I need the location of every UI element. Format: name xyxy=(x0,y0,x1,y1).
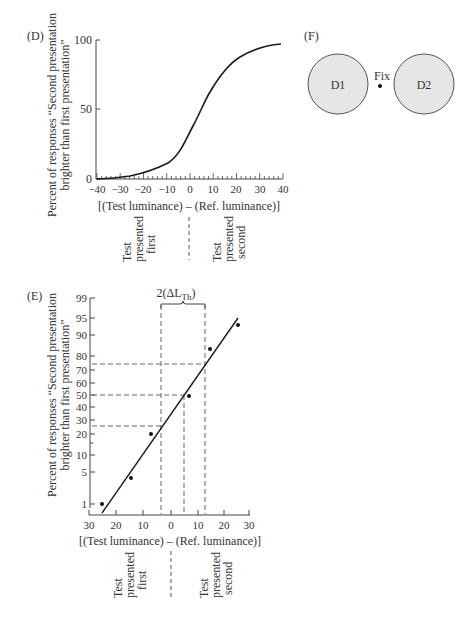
figure: (D) Percent of responses “Second present… xyxy=(0,0,475,628)
panel-e-xtick: 10 xyxy=(193,519,205,531)
panel-d-xtick: 20 xyxy=(231,183,243,195)
panel-f: (F) D1 Fix D2 xyxy=(304,29,454,114)
panel-e-ytick: 50 xyxy=(76,389,88,401)
panel-e-ytick: 70 xyxy=(76,364,88,376)
panel-e-xtick: 30 xyxy=(244,519,256,531)
panel-e-bracket-label: 2(ΔLTh) xyxy=(156,286,195,302)
panel-d-annot-left: Test presented first xyxy=(120,216,158,262)
panel-e-ylabel-line1: Percent of responses “Second presentatio… xyxy=(45,293,59,497)
panel-e-reference-lines xyxy=(92,305,205,514)
panel-e-ytick: 99 xyxy=(76,292,88,304)
panel-e-ytick: 20 xyxy=(76,428,88,440)
panel-e-xtick: 20 xyxy=(219,519,231,531)
panel-e-xlabel: [(Test luminance) – (Ref. luminance)] xyxy=(79,534,261,548)
panel-e-annot-left: Test presented first xyxy=(111,552,149,598)
panel-e-xtick: 10 xyxy=(138,519,150,531)
panel-e-annot-right: Test presented second xyxy=(197,552,235,598)
panel-d-xlabel: [(Test luminance) – (Ref. luminance)] xyxy=(98,199,280,213)
panel-e-ytick: 90 xyxy=(76,329,88,341)
panel-e: (E) Percent of responses “Second present… xyxy=(27,286,261,598)
panel-e-fit-line xyxy=(102,318,238,513)
panel-d: (D) Percent of responses “Second present… xyxy=(27,13,289,262)
panel-d-ytick: 50 xyxy=(80,102,92,116)
panel-d-xtick: −40 xyxy=(88,183,106,195)
panel-e-ytick: 95 xyxy=(76,312,88,324)
panel-e-ytick: 1 xyxy=(82,498,88,510)
panel-e-x-ticks xyxy=(89,510,249,515)
panel-f-label: (F) xyxy=(304,29,319,43)
panel-e-ytick: 5 xyxy=(82,466,88,478)
svg-text:first: first xyxy=(135,570,149,590)
panel-e-ytick: 30 xyxy=(76,414,88,426)
panel-e-ytick: 10 xyxy=(76,449,88,461)
panel-e-ytick: 40 xyxy=(76,401,88,413)
svg-text:second: second xyxy=(234,226,248,259)
fix-label: Fix xyxy=(374,69,390,83)
panel-e-bracket xyxy=(161,301,205,308)
panel-d-annot-right: Test presented second xyxy=(210,216,248,262)
panel-d-xtick: 30 xyxy=(255,183,267,195)
panel-d-xtick: 40 xyxy=(278,183,290,195)
panel-e-ylabel-line2: brighter than first presentation” xyxy=(58,320,72,471)
panel-e-label: (E) xyxy=(27,289,42,303)
panel-d-xtick: −10 xyxy=(158,183,176,195)
panel-d-xtick: −20 xyxy=(134,183,152,195)
panel-e-ytick: 60 xyxy=(76,377,88,389)
panel-e-xtick: 0 xyxy=(168,519,174,531)
panel-e-xtick: 20 xyxy=(111,519,123,531)
panel-d-xtick: 0 xyxy=(187,183,193,195)
panel-d-psychometric-curve xyxy=(97,44,281,179)
panel-e-ytick: 80 xyxy=(76,350,88,362)
disk-d1-label: D1 xyxy=(331,78,346,92)
disk-d2-label: D2 xyxy=(417,78,432,92)
panel-d-ylabel-line2: brighter than first presentation” xyxy=(58,40,72,191)
panel-d-xtick: 10 xyxy=(208,183,220,195)
panel-e-xtick: 30 xyxy=(84,519,96,531)
panel-d-ylabel-line1: Percent of responses “Second presentatio… xyxy=(45,13,59,217)
panel-e-y-ticks xyxy=(90,298,95,504)
svg-text:first: first xyxy=(144,234,158,254)
svg-text:second: second xyxy=(221,562,235,595)
fixation-dot-icon xyxy=(378,84,382,88)
panel-d-ytick: 100 xyxy=(74,33,92,47)
panel-d-xtick: −30 xyxy=(111,183,129,195)
panel-d-label: (D) xyxy=(27,29,44,43)
